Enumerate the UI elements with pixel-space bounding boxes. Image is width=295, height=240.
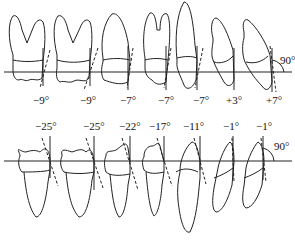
lower-angle-2: −25° — [83, 120, 105, 132]
lower-tooth-2 — [61, 136, 103, 217]
lower-tooth-5 — [176, 136, 206, 232]
upper-tooth-7 — [243, 20, 284, 92]
upper-angle-4: −7° — [158, 94, 174, 106]
upper-reference-angle: 90° — [280, 54, 295, 66]
lower-tooth-6 — [213, 136, 234, 212]
upper-tooth-6 — [212, 18, 234, 90]
lower-tooth-7 — [243, 136, 274, 208]
lower-angle-5: −11° — [183, 120, 204, 132]
upper-angle-2: −9° — [80, 94, 96, 106]
lower-tooth-3 — [105, 136, 139, 217]
upper-tooth-3 — [102, 14, 133, 90]
upper-tooth-4 — [144, 13, 171, 90]
lower-angle-4: −17° — [149, 120, 171, 132]
upper-angle-1: −9° — [33, 94, 49, 106]
lower-arch: −25° −25° −22° −17° −11° −1° −1° — [4, 120, 292, 232]
tooth-angulation-diagram: 90° −9° −9° −7° −7° −7° +3° +7° −25° −25… — [0, 0, 295, 240]
upper-tooth-2 — [54, 16, 98, 90]
lower-tooth-1 — [18, 136, 58, 217]
upper-angle-5: −7° — [193, 94, 209, 106]
lower-angle-3: −22° — [119, 120, 141, 132]
upper-tooth-1 — [9, 16, 50, 88]
lower-angle-6: −1° — [223, 120, 239, 132]
lower-tooth-4 — [143, 136, 173, 216]
upper-angle-3: −7° — [120, 94, 136, 106]
upper-angle-6: +3° — [226, 94, 242, 106]
lower-angle-1: −25° — [35, 120, 57, 132]
lower-reference-angle: 90° — [274, 140, 289, 152]
upper-angle-7: +7° — [266, 94, 282, 106]
lower-angle-7: −1° — [256, 120, 272, 132]
upper-arch: 90° −9° −9° −7° −7° −7° +3° +7° — [4, 2, 295, 106]
upper-tooth-5 — [176, 2, 203, 90]
